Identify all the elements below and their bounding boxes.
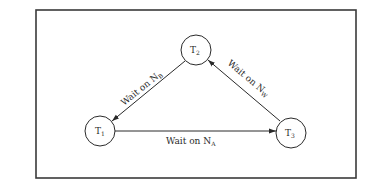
- edge-label-wait-na: Wait on NA: [166, 136, 216, 147]
- wait-for-graph: T1 T2 T3 Wait on NB Wait on NW Wait on N…: [0, 0, 375, 193]
- edge-label-wait-nw: Wait on NW: [225, 58, 272, 100]
- edge-t2-to-t1: [112, 61, 185, 121]
- edge-label-wait-nb: Wait on NB: [119, 68, 165, 108]
- node-t1: T1: [85, 116, 115, 146]
- node-t3: T3: [276, 118, 306, 148]
- node-t2: T2: [181, 35, 211, 65]
